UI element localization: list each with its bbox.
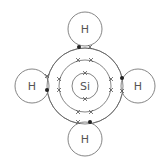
hydrogen-label-bottom: H (81, 133, 89, 146)
silane-diagram: Si H H H H (0, 0, 161, 164)
hydrogen-label-top: H (81, 23, 89, 36)
dot-top (77, 45, 81, 49)
dot-left (45, 88, 49, 92)
hydrogen-label-left: H (28, 80, 36, 93)
dot-bottom (88, 120, 92, 124)
silicon-label: Si (80, 80, 90, 93)
dot-right (120, 76, 124, 80)
hydrogen-label-right: H (134, 80, 142, 93)
